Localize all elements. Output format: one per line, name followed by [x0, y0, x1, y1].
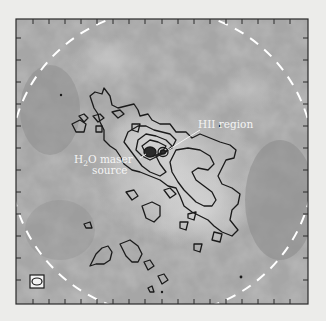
figure: HII region H2O maser source — [0, 0, 326, 321]
label-maser-line2: source — [92, 164, 128, 176]
label-hii-region: HII region — [198, 118, 253, 130]
grayscale-map — [16, 19, 315, 304]
beam-symbol — [30, 275, 44, 288]
contour-core-maser — [144, 147, 156, 157]
